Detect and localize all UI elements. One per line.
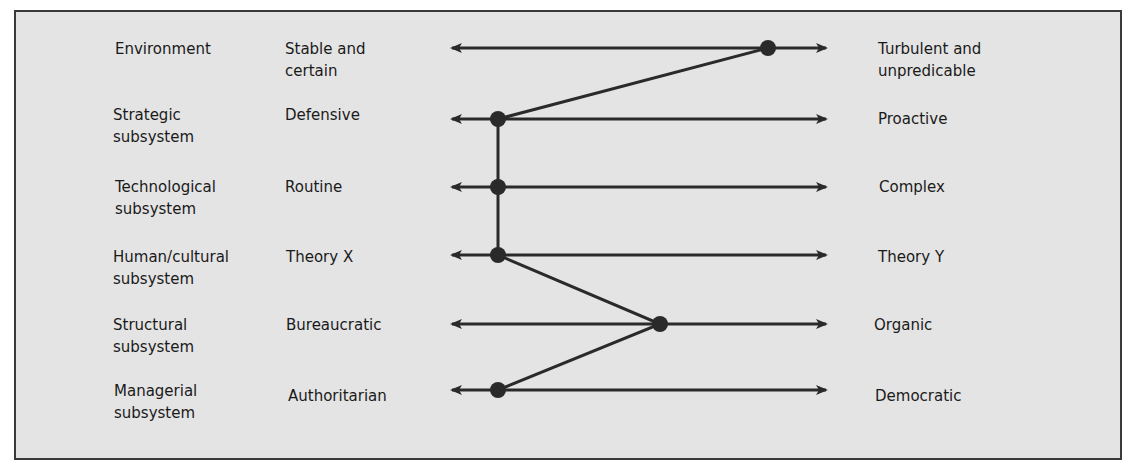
- position-dot: [490, 382, 506, 398]
- profile-line: [498, 48, 768, 390]
- continuum-axes: [452, 48, 826, 390]
- position-dot: [490, 179, 506, 195]
- position-dot: [652, 316, 668, 332]
- profile-dots: [490, 40, 776, 398]
- position-dot: [490, 247, 506, 263]
- position-dot: [490, 111, 506, 127]
- continuum-diagram: [0, 0, 1129, 473]
- position-dot: [760, 40, 776, 56]
